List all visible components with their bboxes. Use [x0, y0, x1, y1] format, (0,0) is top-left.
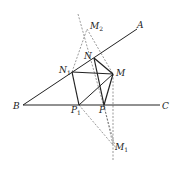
label-n: N	[83, 51, 93, 61]
label-m: M	[115, 68, 126, 78]
segment-n1-p1	[72, 72, 79, 105]
geometry-diagram: A B C M N N1 P P1 M1 M2	[0, 0, 180, 173]
segment-n1-m	[72, 72, 113, 74]
label-c: C	[162, 101, 169, 111]
dashed-line-p-m1	[104, 105, 113, 145]
ray-ba	[23, 29, 137, 105]
label-b: B	[12, 101, 20, 111]
dashed-line-p1-m1	[79, 105, 113, 145]
label-m1: M1	[114, 142, 128, 153]
label-n1: N1	[58, 65, 71, 76]
label-a: A	[136, 20, 144, 30]
label-p1: P1	[70, 105, 81, 116]
label-p: P	[98, 105, 106, 115]
label-m2: M2	[89, 21, 103, 32]
